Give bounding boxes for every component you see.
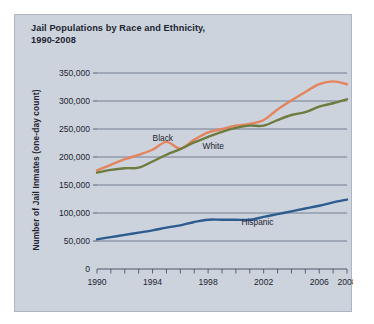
x-tick-label: 2008 xyxy=(337,277,353,287)
x-tick-label: 2002 xyxy=(254,277,273,287)
x-axis-group xyxy=(97,269,347,274)
x-tick-label: 1998 xyxy=(199,277,218,287)
series-lines-group xyxy=(97,81,347,239)
y-tick-label: 250,000 xyxy=(59,124,90,134)
series-label-white: White xyxy=(203,141,225,151)
y-tick-labels-group: 050,000100,000150,000200,000250,000300,0… xyxy=(59,68,90,274)
y-tick-label: 150,000 xyxy=(59,180,90,190)
x-tick-label: 2006 xyxy=(310,277,329,287)
x-tick-label: 1994 xyxy=(143,277,162,287)
y-tick-label: 200,000 xyxy=(59,152,90,162)
series-line-hispanic xyxy=(97,200,347,240)
y-tick-label: 350,000 xyxy=(59,68,90,78)
x-tick-label: 1990 xyxy=(87,277,106,287)
series-label-hispanic: Hispanic xyxy=(241,217,273,227)
y-tick-label: 100,000 xyxy=(59,208,90,218)
y-tick-label: 300,000 xyxy=(59,96,90,106)
chart-plot-area: 050,000100,000150,000200,000250,000300,0… xyxy=(15,15,353,313)
chart-figure: Jail Populations by Race and Ethnicity, … xyxy=(14,14,352,312)
series-label-black: Black xyxy=(153,133,174,143)
x-tick-labels-group: 199019941998200220062008 xyxy=(87,277,353,287)
y-tick-label: 0 xyxy=(85,264,90,274)
y-tick-label: 50,000 xyxy=(64,236,91,246)
series-line-white xyxy=(97,99,347,172)
